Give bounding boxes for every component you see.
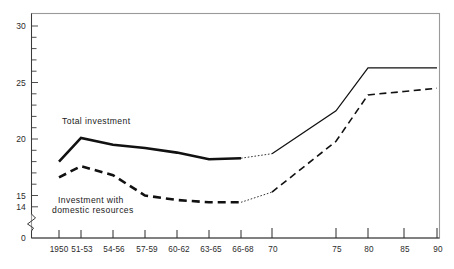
y-tick-label-15: 15: [16, 191, 26, 201]
x-tick-label-60-62: 60-62: [168, 245, 190, 254]
series-total-investment: [59, 68, 437, 162]
y-axis: 30 25 20 15 14 0: [16, 14, 38, 244]
x-tick-label-51-53: 51-53: [71, 245, 93, 254]
x-tick-label-75: 75: [332, 245, 342, 254]
x-ticks: [59, 228, 437, 238]
x-tick-label-63-65: 63-65: [200, 245, 222, 254]
x-tick-label-54-56: 54-56: [103, 245, 125, 254]
y-minor-ticks: [32, 26, 39, 207]
y-tick-label-14: 14: [16, 202, 26, 212]
y-tick-label-0: 0: [21, 233, 26, 243]
chart-figure: 30 25 20 15 14 0: [0, 0, 454, 269]
x-tick-label-70: 70: [268, 245, 278, 254]
x-axis: 1950 51-53 54-56 57-59 60-62 63-65 66-68…: [32, 228, 443, 254]
y-tick-label-30: 30: [16, 21, 26, 31]
x-tick-label-85: 85: [400, 245, 410, 254]
series-total-investment-connector: [241, 154, 272, 159]
series-domestic-resources-dashed-right-segment: [272, 88, 437, 192]
line-chart-svg: 30 25 20 15 14 0: [0, 0, 454, 269]
y-tick-label-25: 25: [16, 78, 26, 88]
x-tick-label-80: 80: [364, 245, 374, 254]
series-total-investment-thin-segment: [272, 68, 437, 154]
y-tick-label-20: 20: [16, 134, 26, 144]
x-tick-label-66-68: 66-68: [232, 245, 254, 254]
series-domestic-resources-connector: [241, 192, 272, 202]
x-tick-label-1950: 1950: [50, 245, 69, 254]
series-total-investment-thick-segment: [59, 138, 241, 162]
series-label-total-investment: Total investment: [62, 116, 131, 126]
series-label-domestic-line1: Investment with: [58, 195, 124, 205]
series-label-domestic-line2: domestic resources: [52, 205, 134, 215]
x-tick-label-57-59: 57-59: [136, 245, 158, 254]
x-tick-label-90: 90: [433, 245, 443, 254]
